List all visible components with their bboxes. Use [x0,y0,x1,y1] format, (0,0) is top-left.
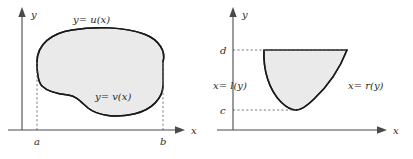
right-y-axis-label: y [241,9,248,20]
left-x-axis-arrow-icon [175,126,185,133]
right-tick-label-c: c [220,105,226,116]
label-x-equals-r-of-y: x= r(y) [348,80,384,91]
left-tick-label-b: b [160,136,166,147]
right-panel: y x d c x= l(y) x= r(y) [207,0,413,159]
right-x-axis-label: x [393,125,399,136]
left-y-axis-label: y [30,9,37,20]
right-tick-label-d: d [220,45,226,56]
left-region-shape [37,28,164,116]
right-x-axis-arrow-icon [377,126,387,133]
label-y-equals-u-of-x: y= u(x) [72,14,110,25]
label-x-equals-l-of-y: x= l(y) [213,80,247,91]
left-tick-label-a: a [34,136,40,147]
left-y-axis-arrow-icon [18,7,25,17]
right-y-axis-arrow-icon [229,7,236,17]
left-panel: y x a b y= u(x) y= v(x) [0,0,207,159]
label-y-equals-v-of-x: y= v(x) [94,91,131,102]
left-x-axis-label: x [191,125,197,136]
figure-container: y x a b y= u(x) y= v(x) y x d c x= [0,0,413,159]
right-region-shape [264,50,347,110]
